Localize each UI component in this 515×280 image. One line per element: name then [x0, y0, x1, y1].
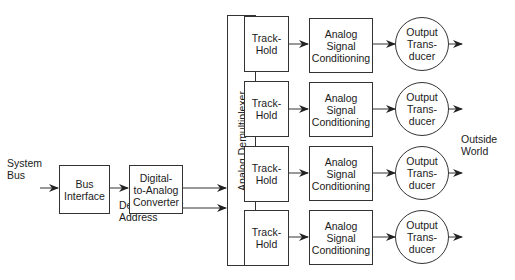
output-transducer: Output Trans- ducer	[395, 82, 449, 136]
output-transducer: Output Trans- ducer	[395, 146, 449, 200]
dac-block: Digital- to-Analog Converter	[129, 165, 183, 214]
signal-conditioning-block: Analog Signal Conditioning	[309, 210, 373, 265]
signal-conditioning-block: Analog Signal Conditioning	[309, 82, 373, 137]
output-transducer: Output Trans- ducer	[395, 17, 449, 71]
outside-world-label: Outside World	[461, 133, 497, 157]
signal-conditioning-block: Analog Signal Conditioning	[309, 18, 373, 73]
track-hold-block: Track- Hold	[244, 146, 289, 202]
track-hold-block: Track- Hold	[244, 210, 289, 266]
signal-conditioning-block: Analog Signal Conditioning	[309, 146, 373, 201]
output-transducer: Output Trans- ducer	[395, 210, 449, 264]
bus-interface-block: Bus Interface	[59, 165, 110, 214]
track-hold-block: Track- Hold	[244, 16, 289, 72]
system-bus-label: System Bus	[7, 157, 42, 181]
track-hold-block: Track- Hold	[244, 81, 289, 137]
